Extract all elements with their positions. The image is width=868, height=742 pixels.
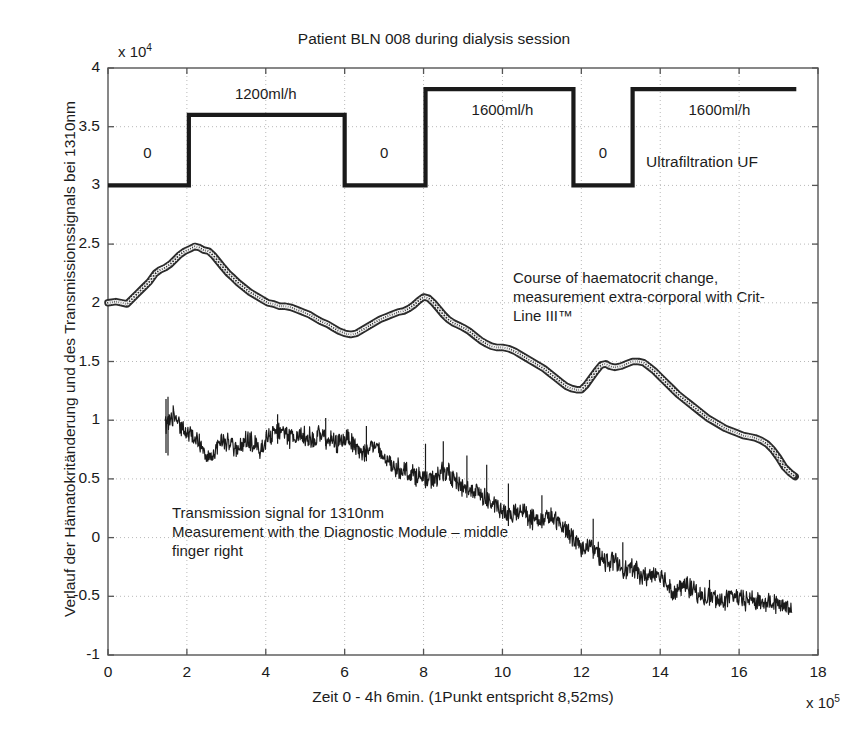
uf-step-label: 0 [339, 144, 429, 161]
plot-frame [108, 68, 818, 655]
transmission-series [165, 406, 792, 615]
chart-figure: Patient BLN 008 during dialysis session … [0, 0, 868, 742]
uf-step-label: 0 [558, 144, 648, 161]
uf-step-label: 1600ml/h [457, 101, 547, 118]
uf-step-label: 0 [102, 144, 192, 161]
uf-step-label: 1200ml/h [221, 85, 311, 102]
uf-step-label: 1600ml/h [674, 101, 764, 118]
